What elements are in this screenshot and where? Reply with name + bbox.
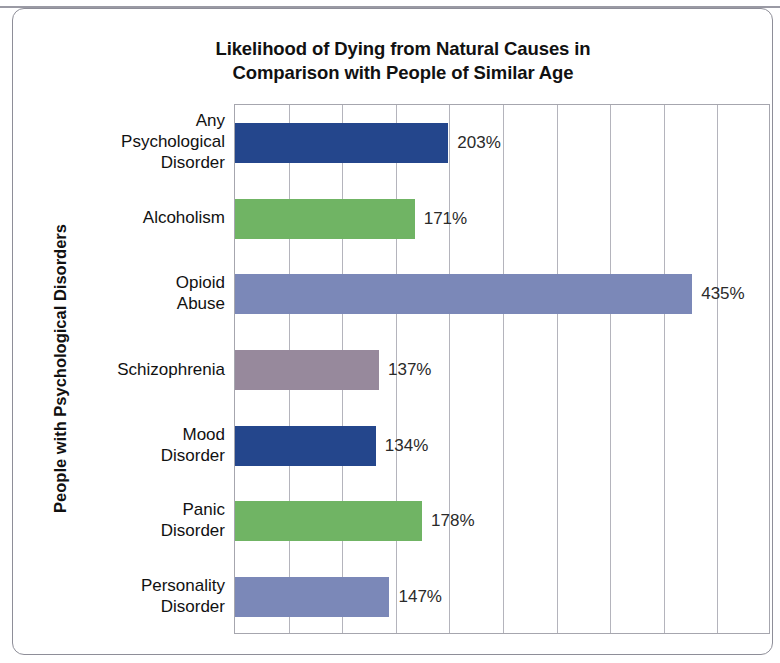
category-label: AnyPsychologicalDisorder — [73, 110, 225, 173]
category-label: Schizophrenia — [73, 359, 225, 380]
category-label-line: Alcoholism — [73, 207, 225, 228]
bar[interactable] — [235, 577, 389, 617]
chart-title-line-1: Likelihood of Dying from Natural Causes … — [103, 37, 703, 61]
category-label: OpioidAbuse — [73, 272, 225, 314]
bar-row[interactable]: 134% — [235, 426, 771, 466]
category-label-line: Opioid — [73, 272, 225, 293]
bar-value-label: 137% — [388, 360, 431, 380]
y-axis-title: People with Psychological Disorders — [51, 204, 70, 534]
category-label: PersonalityDisorder — [73, 575, 225, 617]
category-label-line: Schizophrenia — [73, 359, 225, 380]
bars-layer: 203%171%435%137%134%178%147% — [235, 105, 769, 633]
bar-row[interactable]: 178% — [235, 501, 771, 541]
bar[interactable] — [235, 274, 692, 314]
category-label: Alcoholism — [73, 207, 225, 228]
bar[interactable] — [235, 426, 376, 466]
plot-area: 203%171%435%137%134%178%147% — [234, 104, 770, 634]
bar-value-label: 134% — [385, 436, 428, 456]
category-label-line: Disorder — [73, 152, 225, 173]
category-label-line: Abuse — [73, 293, 225, 314]
bar[interactable] — [235, 501, 422, 541]
chart-title-line-2: Comparison with People of Similar Age — [103, 61, 703, 85]
bar-value-label: 203% — [457, 133, 500, 153]
bar-value-label: 171% — [424, 209, 467, 229]
category-axis-labels: AnyPsychologicalDisorderAlcoholismOpioid… — [73, 104, 225, 634]
category-label-line: Panic — [73, 499, 225, 520]
bar-row[interactable]: 137% — [235, 350, 771, 390]
category-label-line: Disorder — [73, 445, 225, 466]
chart-title: Likelihood of Dying from Natural Causes … — [103, 37, 703, 85]
category-label: PanicDisorder — [73, 499, 225, 541]
bar-value-label: 435% — [701, 284, 744, 304]
bar-row[interactable]: 171% — [235, 199, 771, 239]
category-label-line: Psychological — [73, 131, 225, 152]
bar-value-label: 147% — [398, 587, 441, 607]
bar-value-label: 178% — [431, 511, 474, 531]
category-label-line: Any — [73, 110, 225, 131]
category-label: MoodDisorder — [73, 424, 225, 466]
category-label-line: Mood — [73, 424, 225, 445]
page-left-edge — [0, 8, 4, 663]
bar[interactable] — [235, 350, 379, 390]
bar-row[interactable]: 435% — [235, 274, 771, 314]
bar-row[interactable]: 203% — [235, 123, 771, 163]
bar-row[interactable]: 147% — [235, 577, 771, 617]
category-label-line: Personality — [73, 575, 225, 596]
bar[interactable] — [235, 123, 448, 163]
category-label-line: Disorder — [73, 596, 225, 617]
bar[interactable] — [235, 199, 415, 239]
category-label-line: Disorder — [73, 520, 225, 541]
page-frame: Likelihood of Dying from Natural Causes … — [12, 8, 773, 655]
